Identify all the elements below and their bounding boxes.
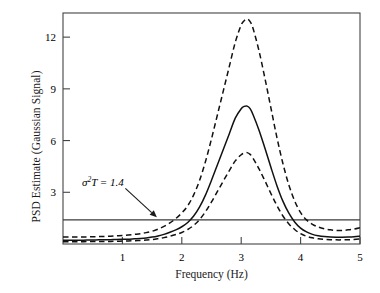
y-tick-label: 3 <box>51 186 57 198</box>
plot-area: 36912 12345 σ2T = 1.4 <box>0 0 380 293</box>
psd-chart-svg: 36912 12345 σ2T = 1.4 <box>0 0 380 293</box>
y-tick-label: 9 <box>51 83 57 95</box>
x-tick-label: 1 <box>120 251 126 263</box>
plot-frame <box>63 13 360 244</box>
y-tick-label: 6 <box>51 135 57 147</box>
curve-lower-confidence-bound <box>63 153 360 242</box>
x-tick-label: 4 <box>298 251 304 263</box>
y-tick-label: 12 <box>45 31 56 43</box>
series-group <box>63 19 360 242</box>
y-axis-ticks: 36912 <box>45 31 70 198</box>
x-tick-label: 5 <box>357 251 363 263</box>
curve-upper-confidence-bound <box>63 19 360 237</box>
x-axis-ticks: 12345 <box>120 237 364 263</box>
annotation-label: σ2T = 1.4 <box>82 175 124 188</box>
annotation-arrow <box>125 188 151 212</box>
annot-rest: T = 1.4 <box>91 176 124 188</box>
x-tick-label: 2 <box>179 251 185 263</box>
x-tick-label: 3 <box>238 251 244 263</box>
annotation-group: σ2T = 1.4 <box>82 175 157 217</box>
chart-root: PSD Estimate (Gaussian Signal) Frequency… <box>0 0 380 293</box>
